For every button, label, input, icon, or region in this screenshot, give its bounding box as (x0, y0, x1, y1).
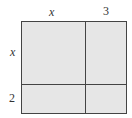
top-label-3: 3 (103, 5, 109, 17)
area-model-rectangle (21, 21, 127, 114)
side-label-2: 2 (9, 92, 15, 104)
side-label-x: x (10, 46, 15, 58)
horizontal-divider (21, 84, 127, 85)
vertical-divider (85, 21, 86, 114)
top-label-x: x (49, 6, 54, 18)
